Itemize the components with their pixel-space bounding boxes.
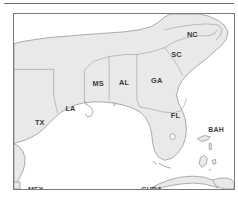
region-label-nc: NC <box>187 30 198 39</box>
region-label-cuba: CUBA <box>141 186 162 189</box>
caption-divider-rule <box>4 3 234 4</box>
region-label-ms: MS <box>93 79 104 88</box>
land-bahamas-south <box>212 159 216 164</box>
region-label-tx: TX <box>35 118 45 127</box>
region-label-al: AL <box>119 78 129 87</box>
region-label-bah: BAH <box>208 126 224 133</box>
region-label-ga: GA <box>151 76 163 85</box>
land-bahamas-dot <box>209 169 210 170</box>
lake-okeechobee-icon <box>170 134 175 140</box>
region-label-la: LA <box>65 104 76 113</box>
map-canvas: TX LA MS AL GA SC NC FL MEX CUBA BAH <box>14 14 234 189</box>
region-label-sc: SC <box>171 51 182 60</box>
land-mexico-baseline <box>14 182 20 189</box>
map-frame: TX LA MS AL GA SC NC FL MEX CUBA BAH <box>13 13 235 190</box>
land-bahamas-mid <box>209 144 211 150</box>
region-label-fl: FL <box>171 111 181 120</box>
map-figure: TX LA MS AL GA SC NC FL MEX CUBA BAH <box>0 0 238 203</box>
region-label-mex: MEX <box>28 186 44 189</box>
